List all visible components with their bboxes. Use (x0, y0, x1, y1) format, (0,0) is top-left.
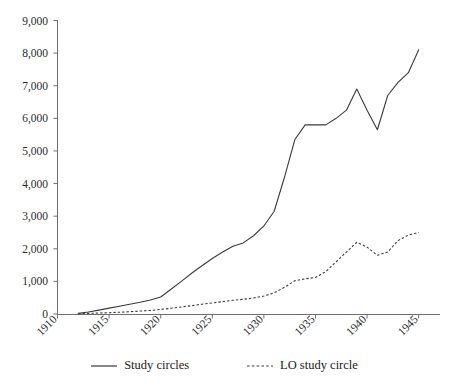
series-lo-study-circle (78, 232, 419, 313)
y-axis-tick-marks (54, 21, 58, 315)
y-tick-label: 9,000 (22, 15, 48, 28)
y-tick-label: 3,000 (22, 210, 48, 223)
legend-label-study-circles: Study circles (124, 358, 189, 373)
x-tick-label: 1915 (86, 313, 111, 338)
x-tick-label: 1930 (241, 313, 266, 338)
chart-figure: 01,0002,0003,0004,0005,0006,0007,0008,00… (0, 0, 449, 387)
x-tick-label: 1945 (395, 313, 420, 338)
x-tick-label: 1935 (292, 313, 317, 338)
y-tick-label: 5,000 (22, 145, 48, 158)
y-tick-label: 1,000 (22, 275, 48, 288)
chart-legend: Study circles LO study circle (0, 358, 449, 373)
legend-item-study-circles: Study circles (91, 358, 189, 373)
line-chart-plot: 01,0002,0003,0004,0005,0006,0007,0008,00… (0, 0, 449, 387)
y-tick-label: 6,000 (22, 112, 48, 125)
y-tick-label: 2,000 (22, 243, 48, 256)
legend-item-lo-study-circle: LO study circle (247, 358, 358, 373)
y-tick-label: 4,000 (22, 178, 48, 191)
x-tick-label: 1925 (189, 313, 214, 338)
x-axis-tick-labels: 19101915192019251930193519401945 (34, 313, 420, 338)
x-tick-label: 1940 (344, 313, 369, 338)
x-tick-label: 1910 (34, 313, 59, 338)
legend-line-dashed-icon (247, 361, 273, 371)
y-tick-label: 7,000 (22, 80, 48, 93)
y-axis-tick-labels: 01,0002,0003,0004,0005,0006,0007,0008,00… (22, 15, 48, 321)
legend-line-solid-icon (91, 361, 117, 371)
x-tick-label: 1920 (137, 313, 162, 338)
series-study-circles (78, 50, 419, 314)
legend-label-lo-study-circle: LO study circle (280, 358, 358, 373)
y-tick-label: 8,000 (22, 47, 48, 60)
